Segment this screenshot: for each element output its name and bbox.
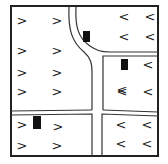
arrow-left-icon: <	[116, 118, 127, 131]
arrow-right-icon: >	[17, 118, 28, 131]
arrow-left-icon: <	[142, 137, 153, 150]
arrow-right-icon: >	[52, 139, 63, 152]
arrow-left-icon: <	[142, 118, 153, 131]
arrow-left-icon: <	[143, 58, 154, 71]
arrow-right-icon: >	[17, 44, 28, 57]
arrow-left-icon: <	[119, 30, 130, 43]
arrow-left-icon: <	[117, 83, 128, 96]
outer-frame	[11, 6, 158, 156]
arrow-right-icon: >	[52, 14, 63, 27]
arrow-right-icon: >	[52, 66, 63, 79]
block-marker-icon	[83, 31, 90, 42]
arrow-left-icon: <	[116, 137, 127, 150]
arrow-right-icon: >	[17, 139, 28, 152]
arrow-left-icon: <	[119, 10, 130, 23]
arrow-right-icon: >	[17, 66, 28, 79]
arrow-right-icon: >	[52, 44, 63, 57]
arrow-right-icon: >	[17, 14, 28, 27]
arrow-left-icon: <	[145, 30, 156, 43]
road-edge	[11, 110, 92, 111]
block-marker-icon	[121, 59, 128, 70]
curved-road-left-edge	[69, 7, 92, 110]
block-marker-icon	[33, 116, 41, 129]
arrow-left-icon: <	[143, 85, 154, 98]
arrow-right-icon: >	[53, 120, 64, 133]
arrow-right-icon: >	[52, 85, 63, 98]
arrow-right-icon: >	[17, 85, 28, 98]
arrow-left-icon: <	[145, 10, 156, 23]
road-edge	[103, 110, 158, 112]
